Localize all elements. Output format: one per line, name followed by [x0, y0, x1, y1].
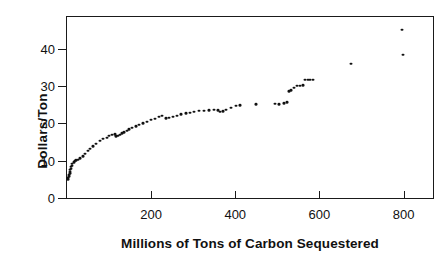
- x-tick-label-200: 200: [140, 207, 162, 222]
- data-point: [350, 62, 353, 64]
- data-point: [225, 109, 228, 111]
- x-tick-label-600: 600: [309, 207, 331, 222]
- data-point: [84, 152, 87, 154]
- data-point: [301, 84, 304, 86]
- data-point: [188, 111, 191, 113]
- data-point: [221, 110, 224, 112]
- y-tick-label-40: 40: [41, 41, 55, 56]
- y-tick-30: [58, 86, 67, 87]
- data-point: [141, 122, 144, 124]
- data-point: [255, 103, 258, 105]
- data-point: [137, 124, 140, 126]
- data-point: [72, 161, 75, 163]
- data-point: [102, 138, 105, 140]
- data-point: [401, 29, 404, 31]
- data-point: [68, 170, 71, 172]
- data-point: [68, 174, 71, 176]
- data-point: [98, 140, 101, 142]
- data-point: [296, 85, 299, 87]
- data-point: [309, 79, 312, 81]
- y-tick-20: [58, 123, 67, 124]
- x-tick-label-400: 400: [224, 207, 246, 222]
- data-point: [219, 111, 222, 113]
- data-point: [161, 115, 164, 117]
- data-point: [73, 160, 76, 162]
- x-axis-title: Millions of Tons of Carbon Sequestered: [66, 236, 434, 251]
- data-points-layer: [67, 17, 433, 198]
- data-point: [131, 127, 134, 129]
- y-tick-label-20: 20: [41, 116, 55, 131]
- data-point: [158, 116, 161, 118]
- data-point: [105, 136, 108, 138]
- data-point: [70, 166, 73, 168]
- data-point: [134, 125, 137, 127]
- data-point: [306, 78, 309, 80]
- data-point: [282, 102, 285, 104]
- data-point: [154, 117, 157, 119]
- data-point: [121, 132, 124, 134]
- data-point: [69, 169, 72, 171]
- data-point: [79, 157, 82, 159]
- data-point: [81, 155, 84, 157]
- data-point: [176, 114, 179, 116]
- data-point: [66, 178, 69, 180]
- data-point: [172, 115, 175, 117]
- y-tick-40: [58, 49, 67, 50]
- data-point: [92, 145, 95, 147]
- data-point: [108, 135, 111, 137]
- x-tick-600: [319, 191, 320, 199]
- data-point: [67, 175, 70, 177]
- y-tick-0: [58, 198, 67, 199]
- y-tick-10: [58, 161, 67, 162]
- x-tick-800: [404, 191, 405, 199]
- data-point: [86, 150, 89, 152]
- data-point: [274, 103, 277, 105]
- data-point: [164, 117, 167, 119]
- data-point: [70, 164, 73, 166]
- data-point: [145, 121, 148, 123]
- data-point: [213, 109, 216, 111]
- data-point: [311, 78, 314, 80]
- y-tick-label-30: 30: [41, 79, 55, 94]
- data-point: [202, 109, 205, 111]
- data-point: [304, 79, 307, 81]
- data-point: [69, 167, 72, 169]
- data-point: [180, 113, 183, 115]
- data-point: [71, 162, 74, 164]
- data-point: [76, 158, 79, 160]
- data-point: [150, 119, 153, 121]
- data-point: [208, 109, 211, 111]
- data-point: [113, 133, 116, 135]
- data-point: [235, 105, 238, 107]
- data-point: [115, 135, 118, 137]
- data-point: [184, 112, 187, 114]
- data-point: [293, 86, 296, 88]
- data-point: [278, 103, 281, 105]
- data-point: [89, 148, 92, 150]
- scatter-chart-figure: Dollars/Ton 010203040 200400600800 Milli…: [0, 0, 447, 261]
- data-point: [119, 133, 122, 135]
- y-tick-label-10: 10: [41, 153, 55, 168]
- data-point: [168, 117, 171, 119]
- data-point: [123, 131, 126, 133]
- data-point: [125, 130, 128, 132]
- data-point: [239, 104, 242, 106]
- data-point: [116, 135, 119, 137]
- y-tick-label-0: 0: [48, 191, 55, 206]
- data-point: [230, 106, 233, 108]
- data-point: [67, 177, 70, 179]
- data-point: [193, 111, 196, 113]
- data-point: [128, 128, 131, 130]
- data-point: [402, 53, 405, 55]
- data-point: [111, 134, 114, 136]
- x-tick-400: [235, 191, 236, 199]
- data-point: [288, 90, 291, 92]
- data-point: [286, 101, 289, 103]
- data-point: [197, 110, 200, 112]
- data-point: [68, 172, 71, 174]
- data-point: [75, 159, 78, 161]
- data-point: [216, 109, 219, 111]
- data-point: [299, 84, 302, 86]
- data-point: [95, 142, 98, 144]
- x-tick-label-800: 800: [393, 207, 415, 222]
